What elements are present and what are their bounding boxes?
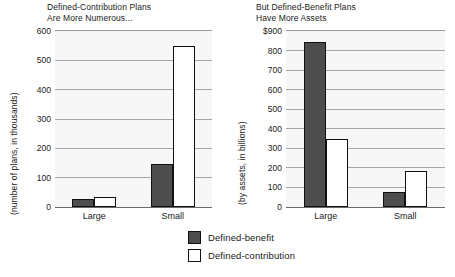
x-axis-tick-label: Large xyxy=(55,211,134,221)
bar-defined-contribution xyxy=(173,46,195,207)
y-axis-tick-label: $900 xyxy=(263,27,282,36)
y-axis-label-plans-count: (number of plans, in thousands) xyxy=(9,92,19,215)
bar-group: Small xyxy=(366,31,446,207)
y-axis-tick-label: 500 xyxy=(37,56,51,65)
y-axis-tick-label: 400 xyxy=(268,125,282,134)
legend-swatch-defined-contribution xyxy=(188,249,201,262)
chart-title-plans-assets: But Defined-Benefit Plans Have More Asse… xyxy=(256,2,356,23)
x-axis-tick-label: Small xyxy=(366,211,446,221)
plot-area-plans-count: 0100200300400500600LargeSmall xyxy=(55,30,212,208)
bar-defined-contribution xyxy=(94,197,116,207)
bar-defined-benefit xyxy=(304,42,326,207)
y-axis-tick-label: 0 xyxy=(277,203,282,212)
bar-defined-benefit xyxy=(151,164,173,207)
legend-swatch-defined-benefit xyxy=(188,231,201,244)
y-axis-tick-label: 800 xyxy=(268,46,282,55)
legend-item: Defined-benefit xyxy=(188,231,295,244)
legend-item: Defined-contribution xyxy=(188,249,295,262)
plot-area-plans-assets: 0100200300400500600700800$900LargeSmall xyxy=(286,30,445,208)
y-axis-tick-label: 600 xyxy=(37,27,51,36)
bar-defined-contribution xyxy=(405,171,427,207)
y-axis-tick-label: 300 xyxy=(268,144,282,153)
y-axis-tick-label: 200 xyxy=(37,144,51,153)
y-axis-tick-label: 700 xyxy=(268,66,282,75)
chart-panel-plans-assets: But Defined-Benefit Plans Have More Asse… xyxy=(228,0,455,230)
legend: Defined-benefitDefined-contribution xyxy=(188,231,295,262)
bar-defined-contribution xyxy=(326,139,348,207)
figure: Defined-Contribution Plans Are More Nume… xyxy=(0,0,455,277)
y-axis-tick-label: 100 xyxy=(37,173,51,182)
bar-defined-benefit xyxy=(383,192,405,207)
legend-label: Defined-benefit xyxy=(208,232,274,243)
y-axis-tick-label: 600 xyxy=(268,85,282,94)
bar-defined-benefit xyxy=(72,199,94,207)
y-axis-tick-label: 400 xyxy=(37,85,51,94)
y-axis-tick-label: 100 xyxy=(268,183,282,192)
chart-panel-plans-count: Defined-Contribution Plans Are More Nume… xyxy=(0,0,228,230)
bar-group: Small xyxy=(134,31,213,207)
legend-label: Defined-contribution xyxy=(208,250,295,261)
y-axis-tick-label: 500 xyxy=(268,105,282,114)
chart-title-plans-count: Defined-Contribution Plans Are More Nume… xyxy=(47,2,151,23)
bar-group: Large xyxy=(55,31,134,207)
y-axis-label-plans-assets: (by assets, in billions) xyxy=(237,121,247,205)
y-axis-tick-label: 200 xyxy=(268,164,282,173)
y-axis-tick-label: 0 xyxy=(46,203,51,212)
y-axis-tick-label: 300 xyxy=(37,115,51,124)
x-axis-tick-label: Large xyxy=(286,211,366,221)
bar-group: Large xyxy=(286,31,366,207)
x-axis-tick-label: Small xyxy=(134,211,213,221)
